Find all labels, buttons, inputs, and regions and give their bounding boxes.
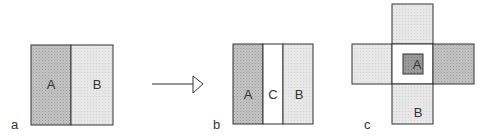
diagram-canvas: A B a A C B b A B c bbox=[0, 0, 490, 137]
region-a-B-label: B bbox=[93, 77, 102, 92]
panel-b: A C B b bbox=[213, 44, 313, 132]
region-c-left-arm bbox=[352, 44, 392, 84]
region-b-B bbox=[283, 44, 313, 124]
region-c-A-label: A bbox=[413, 57, 422, 72]
region-c-top-arm bbox=[392, 4, 433, 44]
region-c-B-label: B bbox=[414, 105, 423, 120]
region-b-B-label: B bbox=[295, 87, 304, 102]
panel-a-label: a bbox=[11, 117, 19, 132]
panel-a: A B a bbox=[11, 45, 113, 132]
region-b-A-label: A bbox=[244, 87, 253, 102]
region-c-bottom-arm bbox=[392, 84, 433, 124]
region-c-right-arm bbox=[433, 44, 474, 84]
region-b-C-label: C bbox=[268, 87, 277, 102]
region-b-A bbox=[233, 44, 263, 124]
arrow-icon bbox=[152, 76, 203, 93]
panel-c: A B c bbox=[352, 4, 474, 132]
panel-c-label: c bbox=[364, 117, 371, 132]
region-b-C bbox=[263, 44, 283, 124]
region-a-A-label: A bbox=[47, 77, 56, 92]
panel-b-label: b bbox=[213, 117, 220, 132]
